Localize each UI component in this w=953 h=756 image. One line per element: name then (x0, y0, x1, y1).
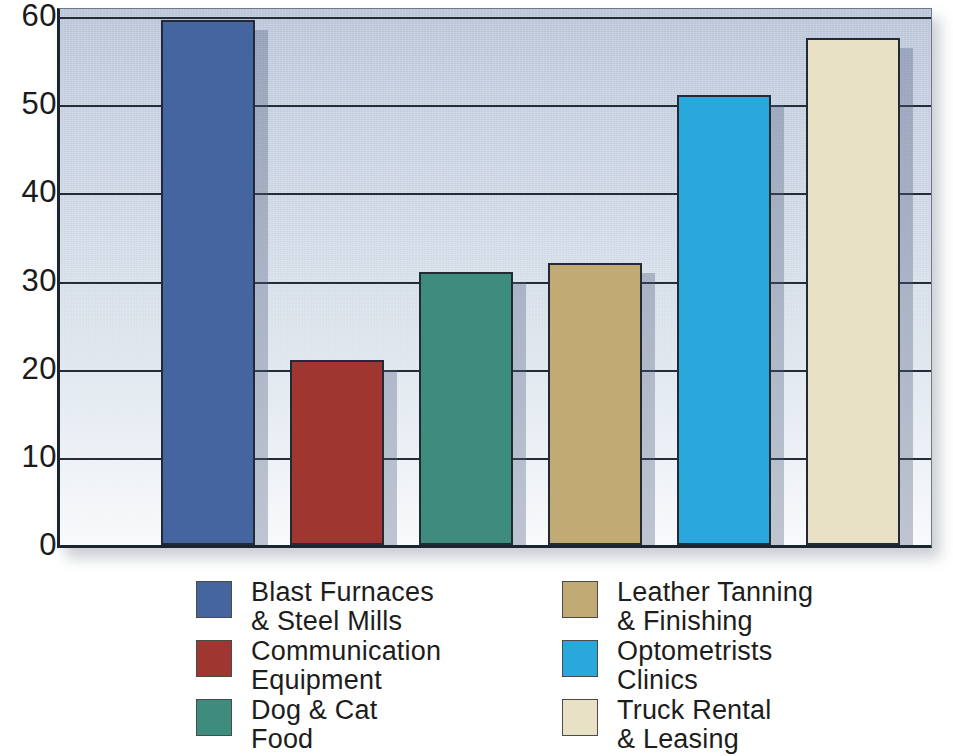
y-axis-tick-label: 0 (9, 527, 57, 563)
bar (419, 272, 513, 545)
legend-item[interactable]: Dog & Cat Food (196, 696, 566, 755)
plot-area (57, 8, 932, 548)
gridline (60, 17, 931, 19)
y-axis-tick-label: 10 (9, 439, 57, 475)
y-axis-tick-label: 20 (9, 351, 57, 387)
bar (290, 360, 384, 545)
legend-item-label: Blast Furnaces & Steel Mills (251, 578, 434, 636)
bar (806, 38, 900, 545)
y-axis: 0102030405060 (0, 8, 57, 548)
legend-color-swatch (196, 640, 232, 677)
legend-item-label: Truck Rental & Leasing (617, 696, 771, 754)
y-axis-tick-label: 30 (9, 263, 57, 299)
legend-item[interactable]: Communication Equipment (196, 637, 566, 696)
bar (677, 95, 771, 545)
legend-item-label: Optometrists Clinics (617, 637, 772, 695)
y-axis-tick-label: 60 (9, 0, 57, 34)
bar-chart: 0102030405060 Blast Furnaces & Steel Mil… (0, 0, 953, 756)
legend-color-swatch (196, 581, 232, 618)
legend-column-left: Blast Furnaces & Steel MillsCommunicatio… (196, 578, 566, 755)
legend-color-swatch (562, 699, 598, 736)
legend-item[interactable]: Truck Rental & Leasing (562, 696, 932, 755)
legend-color-swatch (562, 581, 598, 618)
plot-wrapper (57, 8, 932, 548)
legend-item[interactable]: Leather Tanning & Finishing (562, 578, 932, 637)
legend-column-right: Leather Tanning & FinishingOptometrists … (562, 578, 932, 755)
legend-item[interactable]: Optometrists Clinics (562, 637, 932, 696)
bar (548, 263, 642, 545)
y-axis-tick-label: 40 (9, 174, 57, 210)
legend-color-swatch (562, 640, 598, 677)
legend-item-label: Communication Equipment (251, 637, 441, 695)
legend: Blast Furnaces & Steel MillsCommunicatio… (196, 578, 953, 756)
legend-color-swatch (196, 699, 232, 736)
y-axis-tick-label: 50 (9, 86, 57, 122)
legend-item[interactable]: Blast Furnaces & Steel Mills (196, 578, 566, 637)
legend-item-label: Dog & Cat Food (251, 696, 377, 754)
legend-item-label: Leather Tanning & Finishing (617, 578, 813, 636)
bar (161, 20, 255, 545)
